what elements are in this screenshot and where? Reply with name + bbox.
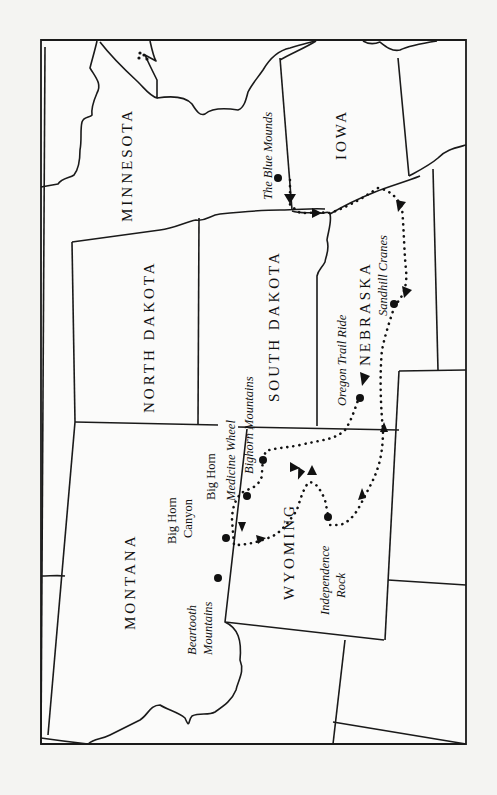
place-label-sandhill-cranes: Sandhill Cranes xyxy=(376,235,390,316)
island-icon xyxy=(138,51,141,54)
place-label-beartooth-1: Beartooth xyxy=(185,605,199,655)
island-icon xyxy=(137,56,140,59)
place-label-blue-mounds: The Blue Mounds xyxy=(261,112,275,200)
place-label-independence-1: Independence xyxy=(318,545,332,616)
state-label-montana: MONTANA xyxy=(122,534,138,630)
state-label-minnesota: MINNESOTA xyxy=(119,108,135,222)
place-label-oregon-trail-ride: Oregon Trail Ride xyxy=(335,314,349,406)
place-label-beartooth-2: Mountains xyxy=(201,601,215,656)
location-dot-big-horn-canyon xyxy=(222,534,230,542)
place-label-big-horn-canyon-1: Big Horn xyxy=(165,496,179,544)
location-dot-beartooth xyxy=(214,574,222,582)
location-dot-sandhill-cranes xyxy=(390,300,398,308)
place-label-bighorn-mountains: Bighorn Mountains xyxy=(242,376,256,474)
state-label-iowa: IOWA xyxy=(333,109,349,160)
state-label-nebraska: NEBRASKA xyxy=(357,261,373,366)
island-icon xyxy=(142,53,145,56)
location-dot-bighorn-mountains xyxy=(259,456,267,464)
state-label-north-dakota: NORTH DAKOTA xyxy=(141,260,157,413)
place-label-big-horn: Big Horn xyxy=(204,452,218,500)
location-dot-blue-mounds xyxy=(274,174,282,182)
kansas-north-border xyxy=(399,370,466,371)
nd-sd-border xyxy=(198,218,199,424)
place-label-independence-2: Rock xyxy=(334,573,348,599)
location-dot-independence-rock xyxy=(324,513,332,521)
location-dot-oregon-trail xyxy=(356,394,364,402)
state-label-south-dakota: SOUTH DAKOTA xyxy=(266,250,282,402)
island-icon xyxy=(145,57,148,60)
location-dot-medicine-wheel xyxy=(243,492,251,500)
state-label-wyoming: WYOMING xyxy=(281,503,297,600)
place-label-medicine-wheel: Medicine Wheel xyxy=(224,420,238,502)
place-label-big-horn-canyon-2: Canyon xyxy=(181,498,195,538)
route-map: MINNESOTA IOWA NORTH DAKOTA SOUTH DAKOTA… xyxy=(0,0,497,795)
